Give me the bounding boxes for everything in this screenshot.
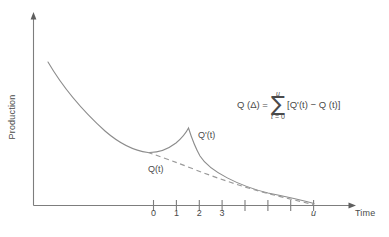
production-decline-chart: Production Time 0 1 2 3 u Q'(t) Q(t) Q (…: [0, 0, 389, 237]
y-axis-label: Production: [7, 87, 17, 147]
summation-lower-value: = 0: [275, 113, 285, 120]
x-tick-label-0: 0: [146, 208, 162, 218]
summation-operator: u ∑ t = 0: [271, 90, 285, 120]
curve-label-q: Q(t): [148, 164, 164, 174]
curve-q: [148, 153, 314, 205]
formula-left-side: Q (Δ) =: [237, 100, 268, 110]
x-tick-label-1: 1: [168, 208, 184, 218]
x-tick-label-2: 2: [191, 208, 207, 218]
x-tick-label-7: u: [306, 208, 322, 218]
summation-formula: Q (Δ) = u ∑ t = 0 [Q'(t) − Q (t)]: [237, 90, 340, 120]
curve-q-prime: [48, 62, 314, 204]
x-tick-label-3: 3: [214, 208, 230, 218]
curve-label-q-prime: Q'(t): [198, 130, 215, 140]
y-axis-arrowhead: [31, 12, 37, 20]
formula-right-side: [Q'(t) − Q (t)]: [287, 100, 340, 110]
sigma-icon: ∑: [271, 96, 285, 113]
x-axis-label: Time: [355, 208, 375, 218]
y-axis: [31, 12, 37, 206]
summation-lower-limit: t = 0: [271, 113, 285, 120]
summation-lower-variable: t: [271, 113, 273, 120]
